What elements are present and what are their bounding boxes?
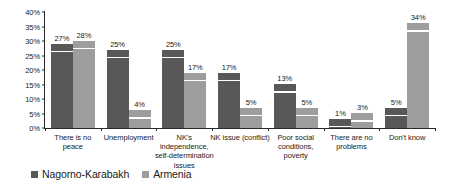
bar-group: 5%34%: [385, 12, 429, 128]
bar-body: [218, 81, 240, 128]
bar-value-label: 27%: [54, 34, 69, 43]
category-label-line: self-determination: [150, 151, 218, 160]
bar-body: [240, 116, 262, 128]
x-axis-tick-mark: [101, 128, 102, 131]
y-axis-tick-mark: [42, 41, 45, 42]
y-axis-tick-mark: [42, 84, 45, 85]
y-axis-tick-mark: [42, 99, 45, 100]
y-axis-tick-mark: [42, 12, 45, 13]
bar-cap: [329, 119, 351, 126]
bar-armenia[interactable]: 5%: [296, 108, 318, 129]
y-axis-tick-mark: [42, 55, 45, 56]
bar-cap: [407, 23, 429, 30]
bar-body: [184, 81, 206, 128]
x-axis-tick-mark: [268, 128, 269, 131]
bar-body: [274, 93, 296, 128]
bar-nagorno-karabakh[interactable]: 5%: [385, 108, 407, 129]
bar-armenia[interactable]: 3%: [351, 113, 373, 128]
bar-value-label: 4%: [134, 100, 145, 109]
y-axis-tick-mark: [42, 70, 45, 71]
bar-value-label: 13%: [277, 74, 292, 83]
bar-cap: [129, 110, 151, 117]
bar-armenia[interactable]: 17%: [184, 73, 206, 128]
bar-value-label: 17%: [188, 63, 203, 72]
bar-cap: [240, 108, 262, 115]
bar-cap: [73, 41, 95, 48]
x-axis-category-label: Don't know: [373, 133, 441, 142]
bar-value-label: 25%: [166, 40, 181, 49]
bar-cap: [351, 113, 373, 120]
legend-swatch-icon: [31, 171, 38, 178]
legend-item-nagorno-karabakh[interactable]: Nagorno-Karabakh: [31, 168, 129, 180]
bar-nagorno-karabakh[interactable]: 27%: [51, 44, 73, 128]
bar-cap: [184, 73, 206, 80]
bar-cap: [107, 50, 129, 57]
bar-value-label: 5%: [246, 98, 257, 107]
bar-value-label: 5%: [391, 98, 402, 107]
bar-nagorno-karabakh[interactable]: 17%: [218, 73, 240, 128]
x-axis-tick-mark: [45, 128, 46, 131]
bar-body: [385, 116, 407, 128]
bar-body: [73, 49, 95, 128]
x-axis-tick-mark: [435, 128, 436, 131]
bar-group: 1%3%: [329, 12, 373, 128]
legend-swatch-icon: [142, 171, 149, 178]
bar-cap: [51, 44, 73, 51]
category-label-line: peace: [39, 142, 107, 151]
bar-nagorno-karabakh[interactable]: 25%: [107, 50, 129, 129]
bar-nagorno-karabakh[interactable]: 1%: [329, 119, 351, 128]
bar-group: 25%4%: [107, 12, 151, 128]
bar-body: [351, 122, 373, 128]
bar-value-label: 25%: [110, 40, 125, 49]
x-axis-tick-mark: [379, 128, 380, 131]
bar-armenia[interactable]: 5%: [240, 108, 262, 129]
y-axis-tick-mark: [42, 113, 45, 114]
bar-cap: [218, 73, 240, 80]
bar-value-label: 28%: [76, 31, 91, 40]
bar-body: [129, 119, 151, 128]
y-axis-tick-mark: [42, 26, 45, 27]
bar-cap: [162, 50, 184, 57]
bar-group: 27%28%: [51, 12, 95, 128]
bar-body: [296, 116, 318, 128]
bar-group: 25%17%: [162, 12, 206, 128]
category-label-line: poverty: [262, 151, 330, 160]
category-label-line: problems: [318, 142, 386, 151]
bar-value-label: 17%: [222, 63, 237, 72]
category-label-line: issues: [150, 161, 218, 170]
bar-body: [162, 58, 184, 128]
bar-group: 17%5%: [218, 12, 262, 128]
x-axis-tick-mark: [156, 128, 157, 131]
plot-area: 0%5%10%15%20%25%30%35%40%27%28%25%4%25%1…: [45, 12, 435, 128]
category-label-line: Don't know: [373, 133, 441, 142]
bar-armenia[interactable]: 28%: [73, 41, 95, 128]
chart-container: 0%5%10%15%20%25%30%35%40%27%28%25%4%25%1…: [0, 0, 449, 191]
bar-nagorno-karabakh[interactable]: 25%: [162, 50, 184, 129]
category-label-line: independence,: [150, 142, 218, 151]
bar-cap: [274, 84, 296, 91]
bar-nagorno-karabakh[interactable]: 13%: [274, 84, 296, 128]
bar-armenia[interactable]: 4%: [129, 110, 151, 128]
bar-value-label: 34%: [411, 13, 426, 22]
bar-value-label: 1%: [335, 109, 346, 118]
bar-armenia[interactable]: 34%: [407, 23, 429, 128]
x-axis-tick-mark: [212, 128, 213, 131]
x-axis-line: [44, 128, 436, 129]
bar-body: [51, 52, 73, 128]
bar-value-label: 5%: [301, 98, 312, 107]
bar-body: [407, 32, 429, 128]
bar-body: [107, 58, 129, 128]
bar-group: 13%5%: [274, 12, 318, 128]
bar-cap: [385, 108, 407, 115]
bar-cap: [296, 108, 318, 115]
bar-value-label: 3%: [357, 103, 368, 112]
legend-label: Nagorno-Karabakh: [42, 168, 129, 180]
x-axis-tick-mark: [324, 128, 325, 131]
bar-body: [329, 127, 351, 128]
